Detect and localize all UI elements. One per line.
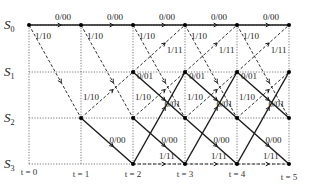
edge-label: 0/01 <box>165 99 181 109</box>
edge-label: 1/10 <box>139 31 156 41</box>
trellis-diagram: 0/001/100/001/101/100/000/001/101/110/01… <box>0 0 311 188</box>
time-label-0: t = 0 <box>21 167 38 177</box>
edge-label: 1/10 <box>87 31 104 41</box>
state-node <box>235 70 239 74</box>
state-node <box>235 116 239 120</box>
state-label-s3: S3 <box>4 156 15 173</box>
time-label-1: t = 1 <box>73 169 90 179</box>
edge-label: 0/00 <box>266 135 283 145</box>
edge-label: 0/01 <box>241 71 257 81</box>
state-label-s1: S1 <box>4 64 15 81</box>
edge-label: 1/10 <box>35 31 52 41</box>
state-label-s0: S0 <box>4 17 15 34</box>
edge-label: 1/10 <box>191 31 208 41</box>
state-node <box>183 23 187 27</box>
edge-label: 1/11 <box>219 45 235 55</box>
edge-label: 0/01 <box>189 71 205 81</box>
state-node <box>27 23 31 27</box>
state-node <box>131 162 135 166</box>
edge-label: 0/00 <box>214 135 231 145</box>
edge-label: 0/00 <box>159 12 176 22</box>
state-node <box>287 23 291 27</box>
edge-label: 1/11 <box>271 45 287 55</box>
time-label-5: t = 5 <box>281 172 298 182</box>
state-node <box>131 116 135 120</box>
time-label-3: t = 3 <box>177 169 194 179</box>
state-node <box>79 23 83 27</box>
edge-S0-S0-t4 <box>237 23 289 27</box>
edge-label: 1/11 <box>159 151 175 161</box>
time-label-4: t = 4 <box>229 169 246 179</box>
state-node <box>235 162 239 166</box>
time-label-2: t = 2 <box>125 169 142 179</box>
edge-S0-S0-t1 <box>81 23 133 27</box>
edge-label: 1/10 <box>135 92 152 102</box>
edge-label: 0/00 <box>211 12 228 22</box>
state-labels: S0S1S2S3 <box>4 17 15 173</box>
state-node <box>183 162 187 166</box>
state-node <box>131 23 135 27</box>
edge-label: 0/01 <box>137 71 153 81</box>
state-node <box>235 23 239 27</box>
edge-label: 1/10 <box>239 92 256 102</box>
edge-label: 0/00 <box>55 12 72 22</box>
state-node <box>131 70 135 74</box>
edge-label: 1/10 <box>243 31 260 41</box>
time-labels: t = 0t = 1t = 2t = 3t = 4t = 5 <box>21 167 298 182</box>
edge-label: 0/00 <box>263 12 280 22</box>
edge-label: 1/11 <box>167 45 183 55</box>
edge-label: 1/11 <box>263 151 279 161</box>
edge-S3-S3-t2 <box>133 162 185 166</box>
state-label-s2: S2 <box>4 110 15 127</box>
edge-label: 0/00 <box>162 135 179 145</box>
edge-label: 1/10 <box>83 92 100 102</box>
edge-S0-S0-t3 <box>185 23 237 27</box>
state-node <box>183 116 187 120</box>
state-node <box>287 162 291 166</box>
edge-label: 0/01 <box>269 99 285 109</box>
edge-S0-S0-t2 <box>133 23 185 27</box>
edge-S0-S0-t0 <box>29 23 81 27</box>
transition-labels: 0/001/100/001/101/100/000/001/101/110/01… <box>35 12 286 161</box>
edge-label: 0/00 <box>110 135 127 145</box>
edge-label: 1/10 <box>187 92 204 102</box>
state-node <box>287 116 291 120</box>
edge-label: 0/01 <box>217 99 233 109</box>
state-node <box>183 70 187 74</box>
state-node <box>287 70 291 74</box>
edge-label: 0/00 <box>107 12 124 22</box>
state-node <box>79 116 83 120</box>
edge-label: 1/11 <box>211 151 227 161</box>
